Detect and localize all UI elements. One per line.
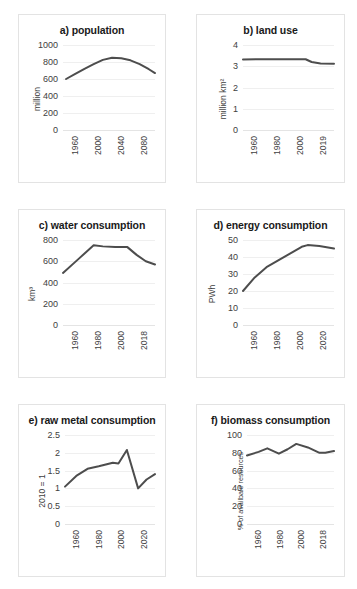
panel-e-title: e) raw metal consumption bbox=[19, 414, 165, 426]
y-tick-label: 600 bbox=[43, 74, 58, 84]
y-tick-label: 800 bbox=[43, 235, 58, 245]
panel-b-land-use: b) land use million km² 01234 1960198020… bbox=[178, 0, 357, 195]
panel-c-water-consumption: c) water consumption km³ 0200400600800 1… bbox=[0, 195, 178, 390]
x-tick-label: 2080 bbox=[139, 136, 149, 155]
y-tick-label: 0 bbox=[233, 125, 238, 135]
y-tick-label: 3 bbox=[233, 61, 238, 71]
panel-d-box: d) energy consumption PWh 01020304050 19… bbox=[196, 209, 345, 378]
x-tick-label: 1980 bbox=[93, 331, 103, 350]
y-tick-label: 2 bbox=[55, 448, 60, 458]
x-tick-label: 2018 bbox=[139, 331, 149, 350]
panel-f-biomass-consumption: f) biomass consumption % of availbale re… bbox=[178, 390, 357, 589]
x-tick-label: 1960 bbox=[253, 530, 263, 549]
panel-e-raw-metal-consumption: e) raw metal consumption 2010 = 1 00.511… bbox=[0, 390, 178, 589]
y-tick-label: 0 bbox=[53, 125, 58, 135]
x-tick-label: 1980 bbox=[272, 136, 282, 155]
x-tick-label: 1980 bbox=[272, 331, 282, 350]
panel-a-plot-area: 02004006008001000 1960200020402080 bbox=[63, 45, 155, 130]
x-tick-label: 2019 bbox=[318, 136, 328, 155]
y-tick-label: 1 bbox=[233, 104, 238, 114]
y-tick-label: 1000 bbox=[38, 40, 58, 50]
x-tick-label: 1960 bbox=[249, 136, 259, 155]
panel-a-population: a) population million 02004006008001000 … bbox=[0, 0, 178, 195]
y-tick-label: 30 bbox=[228, 269, 238, 279]
x-tick-label: 1980 bbox=[275, 530, 285, 549]
y-tick-label: 40 bbox=[228, 252, 238, 262]
y-tick-label: 50 bbox=[228, 235, 238, 245]
gridline bbox=[63, 130, 155, 131]
x-tick-label: 2000 bbox=[296, 530, 306, 549]
panel-e-series-line bbox=[65, 435, 155, 524]
x-tick-label: 2018 bbox=[318, 530, 328, 549]
panel-f-series-line bbox=[247, 435, 334, 524]
x-tick-label: 2040 bbox=[116, 136, 126, 155]
panel-e-y-axis-label: 2010 = 1 bbox=[37, 474, 47, 507]
panel-f-box: f) biomass consumption % of availbale re… bbox=[196, 404, 345, 577]
panel-f-title: f) biomass consumption bbox=[197, 414, 344, 426]
x-tick-label: 1960 bbox=[70, 136, 80, 155]
panel-b-box: b) land use million km² 01234 1960198020… bbox=[196, 14, 345, 183]
x-tick-label: 1960 bbox=[249, 331, 259, 350]
x-tick-label: 2000 bbox=[93, 136, 103, 155]
x-tick-label: 2000 bbox=[295, 136, 305, 155]
y-tick-label: 40 bbox=[232, 483, 242, 493]
y-tick-label: 2 bbox=[233, 83, 238, 93]
panel-b-series-line bbox=[243, 45, 334, 130]
panel-b-title: b) land use bbox=[197, 24, 344, 36]
y-tick-label: 200 bbox=[43, 108, 58, 118]
panel-e-plot-area: 00.511.522.5 1960198020002020 bbox=[65, 435, 155, 524]
y-tick-label: 60 bbox=[232, 466, 242, 476]
panel-a-box: a) population million 02004006008001000 … bbox=[18, 14, 166, 183]
y-tick-label: 0 bbox=[233, 320, 238, 330]
y-tick-label: 100 bbox=[227, 430, 242, 440]
panel-b-plot-area: 01234 1960198020002019 bbox=[243, 45, 334, 130]
panel-f-plot-area: 020406080100 1960198020002018 bbox=[247, 435, 334, 524]
x-tick-label: 2020 bbox=[318, 331, 328, 350]
gridline bbox=[63, 325, 155, 326]
multi-panel-chart-figure: a) population million 02004006008001000 … bbox=[0, 0, 357, 589]
y-tick-label: 20 bbox=[232, 501, 242, 511]
y-tick-label: 400 bbox=[43, 91, 58, 101]
panel-c-box: c) water consumption km³ 0200400600800 1… bbox=[18, 209, 166, 378]
y-tick-label: 400 bbox=[43, 278, 58, 288]
y-tick-label: 600 bbox=[43, 256, 58, 266]
gridline bbox=[65, 524, 155, 525]
panel-d-series-line bbox=[243, 240, 334, 325]
y-tick-label: 2.5 bbox=[47, 430, 60, 440]
panel-c-title: c) water consumption bbox=[19, 219, 165, 231]
y-tick-label: 0 bbox=[55, 519, 60, 529]
x-tick-label: 2000 bbox=[295, 331, 305, 350]
y-tick-label: 80 bbox=[232, 448, 242, 458]
gridline bbox=[247, 524, 334, 525]
x-tick-label: 1980 bbox=[94, 530, 104, 549]
y-tick-label: 0.5 bbox=[47, 501, 60, 511]
y-tick-label: 20 bbox=[228, 286, 238, 296]
x-tick-label: 2000 bbox=[116, 530, 126, 549]
panel-a-series-line bbox=[63, 45, 155, 130]
y-tick-label: 1 bbox=[55, 483, 60, 493]
y-tick-label: 0 bbox=[237, 519, 242, 529]
panel-d-y-axis-label: PWh bbox=[207, 284, 217, 302]
y-tick-label: 1.5 bbox=[47, 466, 60, 476]
x-tick-label: 1960 bbox=[70, 331, 80, 350]
panel-d-plot-area: 01020304050 1960198020002020 bbox=[243, 240, 334, 325]
panel-d-energy-consumption: d) energy consumption PWh 01020304050 19… bbox=[178, 195, 357, 390]
panel-b-y-axis-label: million km² bbox=[218, 78, 228, 119]
panel-c-y-axis-label: km³ bbox=[27, 286, 37, 300]
x-tick-label: 2020 bbox=[139, 530, 149, 549]
panel-a-title: a) population bbox=[19, 24, 165, 36]
panel-a-y-axis-label: million bbox=[32, 86, 42, 110]
y-tick-label: 200 bbox=[43, 299, 58, 309]
x-tick-label: 1960 bbox=[71, 530, 81, 549]
y-tick-label: 10 bbox=[228, 303, 238, 313]
y-tick-label: 4 bbox=[233, 40, 238, 50]
panel-c-series-line bbox=[63, 240, 155, 325]
y-tick-label: 800 bbox=[43, 57, 58, 67]
gridline bbox=[243, 325, 334, 326]
gridline bbox=[243, 130, 334, 131]
panel-e-box: e) raw metal consumption 2010 = 1 00.511… bbox=[18, 404, 166, 577]
x-tick-label: 2000 bbox=[116, 331, 126, 350]
y-tick-label: 0 bbox=[53, 320, 58, 330]
panel-d-title: d) energy consumption bbox=[197, 219, 344, 231]
panel-c-plot-area: 0200400600800 1960198020002018 bbox=[63, 240, 155, 325]
